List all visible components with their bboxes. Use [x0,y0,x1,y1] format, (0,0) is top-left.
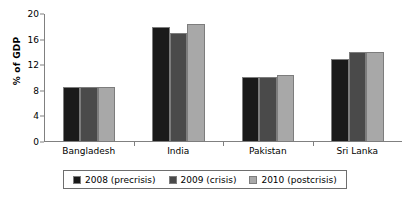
x-axis-category-label: Pakistan [249,146,287,156]
legend-label: 2008 (precrisis) [85,175,156,185]
x-axis-category-label: India [167,146,189,156]
bar [277,75,295,142]
bar-group [152,14,205,142]
plot-area: 048121620 [44,14,402,142]
bar [80,87,98,142]
legend-swatch-icon [73,176,81,184]
bar [152,27,170,142]
bar [98,87,116,142]
legend-label: 2010 (postcrisis) [261,175,336,185]
bar [63,87,81,142]
bar [366,52,384,142]
chart-legend: 2008 (precrisis)2009 (crisis)2010 (postc… [63,170,347,189]
legend-item: 2010 (postcrisis) [249,175,336,185]
bar [331,59,349,142]
bar [170,33,188,142]
legend-swatch-icon [249,176,257,184]
x-axis-category-label: Sri Lanka [336,146,378,156]
bar [259,77,277,142]
bar-group [331,14,384,142]
legend-item: 2009 (crisis) [169,175,237,185]
x-axis-labels: BangladeshIndiaPakistanSri Lanka [44,146,402,160]
bar [242,77,260,142]
bar [349,52,367,142]
bar-chart-figure: % of GDP 048121620 BangladeshIndiaPakist… [0,0,413,201]
bar-group [63,14,116,142]
x-axis-category-label: Bangladesh [62,146,115,156]
legend-label: 2009 (crisis) [181,175,237,185]
legend-item: 2008 (precrisis) [73,175,156,185]
bar [187,24,205,142]
bar-groups [44,14,402,142]
bar-group [242,14,295,142]
y-axis-title: % of GDP [12,16,22,106]
legend-swatch-icon [169,176,177,184]
